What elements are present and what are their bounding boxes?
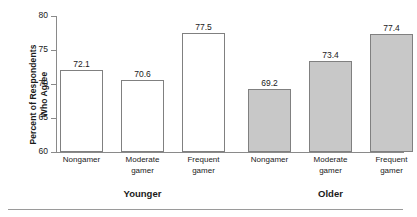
- y-tick-label-75: 75: [39, 44, 48, 55]
- category-label-line1: Moderate: [314, 155, 348, 164]
- bar-value-label: 73.4: [322, 50, 339, 60]
- category-label-line2: gamer: [192, 166, 215, 175]
- plot-area: 80 75 70 65 60 72.1 70.6 77.5 69.2 73.4: [56, 16, 404, 152]
- bar-value-label: 72.1: [73, 59, 90, 69]
- category-label-line1: Frequent: [375, 155, 407, 164]
- bar-value-label: 77.4: [383, 23, 400, 33]
- category-label-line2: gamer: [319, 166, 342, 175]
- y-tick-label-65: 65: [39, 112, 48, 123]
- y-tick-65: 65: [51, 118, 56, 119]
- group-label-older: Older: [281, 188, 381, 199]
- y-tick-label-70: 70: [39, 78, 48, 89]
- y-tick-70: 70: [51, 84, 56, 85]
- category-label-line2: gamer: [380, 166, 403, 175]
- category-label-line1: Nongamer: [251, 155, 288, 164]
- group-label-younger: Younger: [93, 188, 193, 199]
- bottom-divider: [8, 209, 403, 210]
- y-tick-60: 60: [51, 152, 56, 153]
- y-tick-75: 75: [51, 50, 56, 51]
- bar-value-label: 70.6: [134, 69, 151, 79]
- y-tick-80: 80: [51, 16, 56, 17]
- y-axis-line: [56, 16, 57, 152]
- bar-younger-moderate-gamer[interactable]: 70.6: [121, 80, 164, 152]
- bar-younger-nongamer[interactable]: 72.1: [60, 70, 103, 152]
- x-axis-line: [56, 152, 404, 153]
- category-label-line1: Frequent: [187, 155, 219, 164]
- y-tick-label-80: 80: [39, 10, 48, 21]
- category-label-older-frequent-gamer: Frequent gamer: [352, 155, 417, 176]
- bar-older-nongamer[interactable]: 69.2: [248, 89, 291, 152]
- category-label-line2: gamer: [131, 166, 154, 175]
- category-label-line1: Nongamer: [63, 155, 100, 164]
- bar-younger-frequent-gamer[interactable]: 77.5: [182, 33, 225, 152]
- bar-older-frequent-gamer[interactable]: 77.4: [370, 34, 413, 152]
- bar-older-moderate-gamer[interactable]: 73.4: [309, 61, 352, 152]
- bar-value-label: 69.2: [261, 78, 278, 88]
- y-axis-title-line1: Percent of Respondents: [28, 45, 38, 145]
- category-label-line1: Moderate: [126, 155, 160, 164]
- bar-value-label: 77.5: [195, 22, 212, 32]
